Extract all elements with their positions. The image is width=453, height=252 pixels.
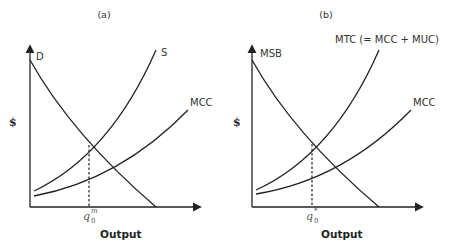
q-superscript: m [91, 207, 98, 215]
mcc-label: MCC [190, 97, 213, 108]
y-axis-label: $ [9, 116, 17, 129]
panel-a-title: (a) [97, 9, 110, 20]
supply-curve [34, 50, 156, 191]
q-subscript: 0 [314, 217, 318, 225]
equilibrium-quantity-label: q * 0 [306, 207, 318, 225]
y-axis-label: $ [233, 116, 241, 129]
q-superscript: * [314, 207, 318, 215]
equilibrium-quantity-label: q m 0 [83, 207, 98, 225]
panel-b-title: (b) [319, 9, 332, 20]
x-axis-label: Output [100, 228, 141, 240]
panel-b: (b) $ Output MSB MTC (= MCC + MUC) MCC q… [233, 9, 439, 240]
mcc-curve [256, 110, 411, 194]
demand-curve [30, 60, 156, 207]
mtc-curve [256, 50, 379, 190]
q-symbol: q [306, 210, 313, 223]
x-axis-label: Output [321, 228, 362, 240]
mtc-label: MTC (= MCC + MUC) [335, 34, 439, 45]
supply-label: S [161, 47, 167, 58]
diagram-canvas: (a) $ Output D S MCC q m 0 (b) $ Output … [0, 0, 453, 252]
mcc-curve [34, 110, 188, 196]
demand-label: D [36, 51, 44, 62]
msb-curve [252, 60, 379, 207]
mcc-label: MCC [413, 97, 436, 108]
q-symbol: q [83, 210, 90, 223]
panel-a: (a) $ Output D S MCC q m 0 [9, 9, 213, 240]
msb-label: MSB [260, 48, 282, 59]
q-subscript: 0 [91, 217, 95, 225]
